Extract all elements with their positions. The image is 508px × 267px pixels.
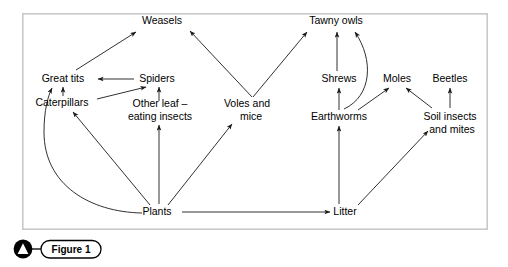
figure-root: Weasels Tawny owls Great tits Spiders Sh… [0,0,508,267]
node-voles-and-mice: Voles andmice [224,97,270,122]
node-spiders: Spiders [139,72,175,84]
diagram-panel-border [23,14,487,229]
edge-voles-tawny [253,32,307,97]
node-shrews: Shrews [321,72,356,84]
caption-label: Figure 1 [52,243,91,254]
edge-voles-weasels [190,31,252,97]
figure-caption: Figure 1 [14,240,101,259]
node-layer: Weasels Tawny owls Great tits Spiders Sh… [35,14,476,217]
edge-litter-soilinsects [358,131,428,205]
node-soil-insects-and-mites: Soil insectsand mites [423,110,476,135]
food-web-diagram: Weasels Tawny owls Great tits Spiders Sh… [0,0,508,267]
edge-greattits-weasels [76,32,136,70]
node-plants: Plants [142,205,171,217]
edge-earthworms-tawny [344,32,367,109]
edge-layer [44,31,450,213]
node-beetles: Beetles [432,72,467,84]
edge-plants-caterpillars [73,112,150,205]
node-litter: Litter [333,205,357,217]
node-great-tits: Great tits [42,72,85,84]
node-weasels: Weasels [142,14,182,26]
node-tawny-owls: Tawny owls [309,14,363,26]
node-earthworms: Earthworms [311,110,367,122]
node-other-leaf-eating-insects: Other leaf –eating insects [128,97,192,122]
node-moles: Moles [383,72,411,84]
node-caterpillars: Caterpillars [35,96,88,108]
edge-plants-voles [168,124,232,205]
edge-soilinsects-moles [406,88,432,108]
